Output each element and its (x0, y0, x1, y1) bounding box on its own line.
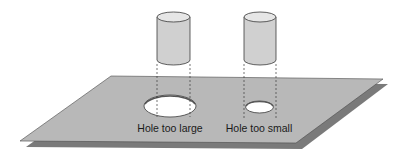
label-hole-too-small: Hole too small (226, 122, 293, 134)
label-hole-too-large: Hole too large (137, 122, 203, 134)
small-hole (246, 101, 274, 113)
left-peg-cylinder (157, 12, 190, 65)
right-peg-cylinder (244, 12, 276, 65)
fit-diagram: Hole too large Hole too small (0, 0, 412, 157)
large-hole (144, 95, 196, 117)
